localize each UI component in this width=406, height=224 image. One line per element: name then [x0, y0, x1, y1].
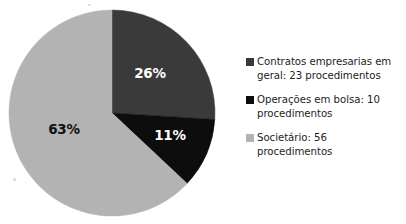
legend-swatch-icon: [246, 58, 254, 66]
legend-item: Contratos empresarias em geral: 23 proce…: [246, 55, 404, 82]
legend-swatch-icon: [246, 96, 254, 104]
pie-plot-area: 26% 11% 63%: [0, 0, 236, 224]
chart-legend: Contratos empresarias em geral: 23 proce…: [246, 55, 404, 170]
legend-item-label: Operações em bolsa: 10 procedimentos: [257, 93, 404, 120]
scan-speck: [88, 4, 91, 6]
legend-item-label: Contratos empresarias em geral: 23 proce…: [257, 55, 404, 82]
pie-slice: [112, 10, 215, 119]
scan-speck: [13, 178, 16, 181]
pie-slices: [9, 10, 215, 216]
legend-item-label: Societário: 56 procedimentos: [257, 131, 404, 158]
pie-svg: [0, 0, 236, 224]
legend-swatch-icon: [246, 134, 254, 142]
pie-chart-figure: 26% 11% 63% Contratos empresarias em ger…: [0, 0, 406, 224]
legend-item: Operações em bolsa: 10 procedimentos: [246, 93, 404, 120]
legend-item: Societário: 56 procedimentos: [246, 131, 404, 158]
